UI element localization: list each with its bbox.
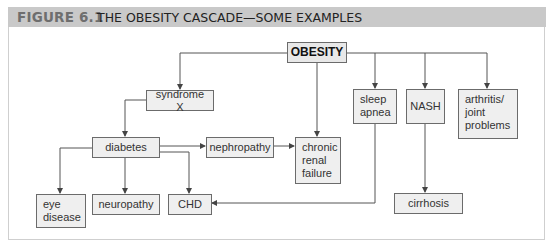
node-nephropathy: nephropathy <box>206 137 274 158</box>
node-label: eye disease <box>43 198 81 223</box>
edge-syndromex-diabetes <box>125 100 146 136</box>
node-label: syndrome X <box>153 88 207 114</box>
node-syndrome-x: syndrome X <box>146 90 214 111</box>
node-label: chronic renal failure <box>302 141 337 179</box>
node-label: arthritis/ joint problems <box>465 93 510 131</box>
node-label: NASH <box>410 100 441 113</box>
edge-obesity-syndromex <box>180 53 287 89</box>
node-label: cirrhosis <box>408 197 449 210</box>
node-arthritis: arthritis/ joint problems <box>458 89 518 139</box>
edge-sleepapnea-chd <box>212 123 375 203</box>
node-label: sleep apnea <box>360 93 391 118</box>
edge-diabetes-chd <box>160 152 189 193</box>
node-label: CHD <box>178 198 202 211</box>
node-diabetes: diabetes <box>92 137 160 158</box>
node-nash: NASH <box>406 89 445 124</box>
node-chronic-renal-failure: chronic renal failure <box>295 137 341 184</box>
node-sleep-apnea: sleep apnea <box>353 89 397 124</box>
node-label: diabetes <box>105 141 147 154</box>
node-label: OBESITY <box>291 46 344 59</box>
edge-diabetes-eye <box>60 148 92 193</box>
node-label: nephropathy <box>209 141 270 154</box>
node-chd: CHD <box>168 194 212 215</box>
node-neuropathy: neuropathy <box>92 194 160 215</box>
node-cirrhosis: cirrhosis <box>394 193 463 214</box>
node-eye-disease: eye disease <box>36 194 86 228</box>
node-obesity: OBESITY <box>287 42 347 63</box>
node-label: neuropathy <box>98 198 153 211</box>
